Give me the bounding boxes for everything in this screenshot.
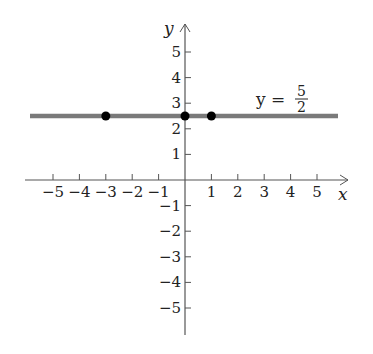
y-tick-label: 4 [171, 69, 181, 87]
data-point [207, 112, 216, 121]
y-tick-label: 5 [171, 43, 181, 61]
x-tick-label: −5 [42, 183, 64, 201]
y-axis-label: y [163, 18, 174, 38]
y-tick-label: −1 [159, 197, 181, 215]
x-tick-label: 1 [207, 183, 217, 201]
y-tick-label: 1 [171, 145, 181, 163]
y-tick-label: 3 [171, 94, 181, 112]
x-tick-label: −4 [68, 183, 90, 201]
chart-area: −5−4−3−2−112345−5−4−3−2−112345 x y y = 5… [0, 0, 373, 354]
y-tick-label: −2 [159, 222, 181, 240]
x-tick-label: −2 [121, 183, 143, 201]
x-tick-label: 3 [259, 183, 269, 201]
axes [25, 24, 348, 335]
data-point [181, 112, 190, 121]
equation-numerator: 5 [297, 83, 306, 99]
y-tick-label: −4 [159, 273, 181, 291]
y-tick-label: −5 [159, 299, 181, 317]
data-point [101, 112, 110, 121]
x-tick-label: −3 [95, 183, 117, 201]
equation-lhs: y = [255, 89, 285, 109]
equation-annotation: y = 5 2 [255, 83, 308, 115]
x-axis-label: x [338, 184, 348, 204]
x-tick-label: 2 [233, 183, 243, 201]
y-tick-label: 2 [171, 120, 181, 138]
equation-denominator: 2 [297, 99, 306, 115]
y-tick-label: −3 [159, 248, 181, 266]
x-tick-label: 5 [312, 183, 322, 201]
x-tick-label: 4 [286, 183, 296, 201]
